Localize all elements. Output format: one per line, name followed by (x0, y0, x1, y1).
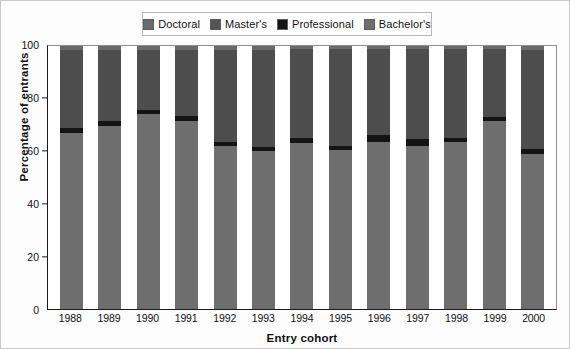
bar-segment-bachelors (483, 121, 506, 309)
bar-1992[interactable] (214, 46, 237, 309)
bar-segment-masters (521, 50, 544, 149)
x-axis-tick-1991: 1991 (175, 312, 198, 332)
bar-segment-bachelors (329, 150, 352, 309)
bar-1988[interactable] (60, 46, 83, 309)
bar-segment-masters (483, 49, 506, 117)
legend-item-professional: Professional (277, 19, 354, 30)
bar-segment-masters (252, 50, 275, 147)
bar-segment-bachelors (175, 121, 198, 309)
bar-2000[interactable] (521, 46, 544, 309)
y-axis-label: Percentage of entrants (18, 2, 30, 232)
x-axis-tick-1990: 1990 (136, 312, 159, 332)
bar-segment-bachelors (60, 133, 83, 309)
bar-segment-masters (98, 50, 121, 121)
bar-segment-bachelors (521, 154, 544, 309)
legend-label-doctoral: Doctoral (158, 19, 200, 30)
plot-area (47, 45, 557, 310)
bar-segment-masters (175, 50, 198, 116)
bar-segment-bachelors (290, 143, 313, 309)
bar-1995[interactable] (329, 46, 352, 309)
legend-item-bachelors: Bachelor's (364, 19, 431, 30)
legend-label-bachelors: Bachelor's (379, 19, 431, 30)
bar-1996[interactable] (367, 46, 390, 309)
legend-swatch-doctoral (143, 19, 154, 30)
x-axis-tick-1997: 1997 (406, 312, 429, 332)
bar-1997[interactable] (406, 46, 429, 309)
bar-segment-bachelors (137, 114, 160, 309)
bar-segment-masters (137, 50, 160, 110)
legend-item-doctoral: Doctoral (143, 19, 200, 30)
legend-label-professional: Professional (292, 19, 354, 30)
bar-segment-bachelors (444, 142, 467, 309)
x-axis-tick-1995: 1995 (329, 312, 352, 332)
bar-group (48, 46, 556, 309)
legend-swatch-masters (210, 19, 221, 30)
legend-item-masters: Master's (210, 19, 267, 30)
bar-segment-bachelors (214, 146, 237, 309)
x-axis-ticks: 1988198919901991199219931994199519961997… (47, 312, 557, 332)
bar-segment-masters (367, 49, 390, 136)
x-axis-tick-1993: 1993 (252, 312, 275, 332)
bar-segment-bachelors (406, 146, 429, 309)
chart-legend: Doctoral Master's Professional Bachelor'… (142, 12, 432, 36)
x-axis-tick-2000: 2000 (522, 312, 545, 332)
x-axis-tick-1999: 1999 (484, 312, 507, 332)
bar-1994[interactable] (290, 46, 313, 309)
bar-segment-masters (214, 50, 237, 142)
x-axis-tick-1992: 1992 (213, 312, 236, 332)
bar-1998[interactable] (444, 46, 467, 309)
bar-1990[interactable] (137, 46, 160, 309)
bar-1991[interactable] (175, 46, 198, 309)
bar-1993[interactable] (252, 46, 275, 309)
bar-1999[interactable] (483, 46, 506, 309)
bar-1989[interactable] (98, 46, 121, 309)
x-axis-tick-1996: 1996 (368, 312, 391, 332)
bar-segment-masters (290, 49, 313, 138)
legend-swatch-professional (277, 19, 288, 30)
chart-frame: Doctoral Master's Professional Bachelor'… (0, 0, 570, 349)
bar-segment-masters (60, 50, 83, 128)
y-axis-tick-label: 20 (1, 251, 47, 263)
bar-segment-bachelors (367, 142, 390, 309)
bar-segment-masters (329, 49, 352, 146)
legend-swatch-bachelors (364, 19, 375, 30)
x-axis-tick-1989: 1989 (97, 312, 120, 332)
x-axis-tick-1994: 1994 (290, 312, 313, 332)
bar-segment-masters (406, 49, 429, 140)
x-axis-label: Entry cohort (47, 332, 557, 344)
y-axis-tick-label: 0 (1, 304, 47, 316)
legend-label-masters: Master's (225, 19, 267, 30)
bar-segment-bachelors (98, 126, 121, 309)
bar-segment-masters (444, 49, 467, 138)
x-axis-tick-1998: 1998 (445, 312, 468, 332)
bar-segment-bachelors (252, 151, 275, 309)
x-axis-tick-1988: 1988 (59, 312, 82, 332)
